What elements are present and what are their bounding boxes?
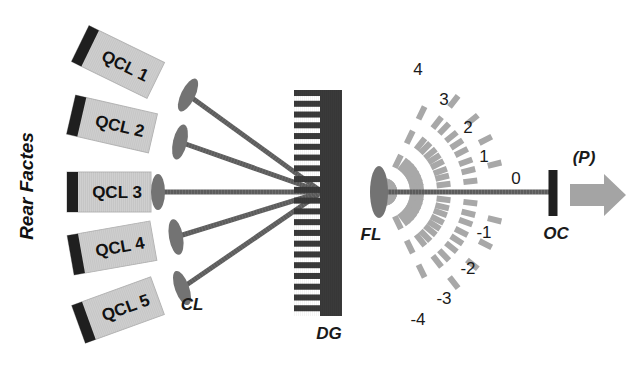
diffraction-order-label--3: -3 xyxy=(436,289,451,308)
cl-lens-element xyxy=(151,174,165,210)
qcl-label: QCL 3 xyxy=(92,183,142,202)
grating-label: DG xyxy=(316,324,342,343)
diffraction-order-label-2: 2 xyxy=(463,118,472,137)
qcl-3[interactable]: QCL 3 xyxy=(67,172,151,212)
collimating-lens-label: CL xyxy=(181,295,204,314)
diffraction-order-label--1: -1 xyxy=(476,223,491,242)
figure-canvas: QCL 1QCL 2QCL 3QCL 4QCL 5 43210-1-2-3-4D… xyxy=(0,0,643,367)
diffraction-order-label-3: 3 xyxy=(439,90,448,109)
diffraction-order-label-1: 1 xyxy=(479,147,488,166)
diffraction-order-label-0: 0 xyxy=(511,169,520,188)
rear-facets-label: Rear Factes xyxy=(16,132,37,240)
optical-schematic: QCL 1QCL 2QCL 3QCL 4QCL 5 43210-1-2-3-4D… xyxy=(0,0,643,367)
diffraction-order-label-4: 4 xyxy=(413,60,422,79)
diffraction-order-label--2: -2 xyxy=(460,259,475,278)
qcl-rear-facet xyxy=(67,172,78,212)
diffraction-order-label--4: -4 xyxy=(410,310,425,329)
grating-texture xyxy=(294,90,342,316)
focusing-lens[interactable] xyxy=(370,166,388,218)
output-power-label: (P) xyxy=(573,148,596,167)
output-coupler-mirror[interactable] xyxy=(549,170,558,216)
diffraction-grating-group xyxy=(294,90,342,316)
focusing-lens-label: FL xyxy=(361,225,382,244)
output-coupler-label: OC xyxy=(543,224,569,243)
collimating-lens-3[interactable] xyxy=(151,174,165,210)
